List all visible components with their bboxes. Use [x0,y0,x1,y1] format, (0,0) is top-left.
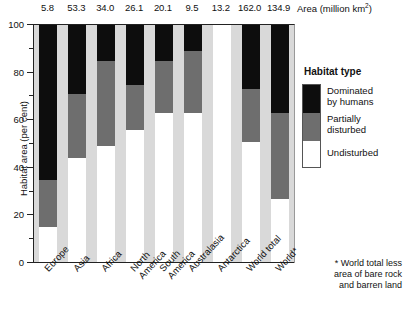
legend-label-undisturbed: Undisturbed [327,148,378,159]
chart-root: 5.853.334.026.120.19.513.2162.0134.9 Are… [0,0,403,316]
legend-label-dominated: Dominated by humans [327,86,373,107]
segment-undisturbed-australasia [184,113,202,263]
legend-swatch-undisturbed [303,141,320,167]
area-caption-suffix: ) [369,3,372,14]
footnote-line-2: area of bare rock [292,269,402,280]
legend-label-partially-l1: Partially [327,113,361,124]
plot-area [33,24,295,263]
footnote-line-3: and barren land [292,280,402,291]
area-value-world: 134.9 [264,2,293,13]
segment-undisturbed-north-america [126,130,144,263]
bar-north-america[interactable] [126,25,144,263]
bar-asia[interactable] [68,25,86,263]
bar-world-total[interactable] [242,25,260,263]
segment-undisturbed-antarctica [213,25,231,263]
segment-partially-australasia [184,51,202,113]
area-axis-caption: Area (million km2) [297,2,372,14]
legend-label-undisturbed-l1: Undisturbed [327,147,378,158]
segment-partially-north-america [126,85,144,130]
segment-dominated-south-america [155,25,173,61]
bar-world[interactable] [271,25,289,263]
segment-partially-south-america [155,61,173,113]
y-tick-label-0: 0 [19,257,24,268]
segment-dominated-north-america [126,25,144,85]
legend-swatch-bar [302,84,321,168]
area-value-asia: 53.3 [62,2,91,13]
area-value-world-total: 162.0 [235,2,264,13]
footnote: * World total less area of bare rock and… [292,258,402,291]
segment-undisturbed-africa [97,146,115,263]
area-values-row: 5.853.334.026.120.19.513.2162.0134.9 [33,2,293,18]
area-caption-text: Area (million km [297,3,365,14]
area-value-antarctica: 13.2 [206,2,235,13]
segment-dominated-africa [97,25,115,61]
segment-undisturbed-south-america [155,113,173,263]
legend-title: Habitat type [304,66,361,77]
bar-south-america[interactable] [155,25,173,263]
area-value-australasia: 9.5 [177,2,206,13]
area-value-north-america: 26.1 [120,2,149,13]
legend-swatch-partially [303,113,320,141]
segment-partially-world [271,113,289,199]
legend-swatch-dominated [303,85,320,113]
segment-dominated-australasia [184,25,202,51]
segment-partially-asia [68,94,86,158]
legend-label-dominated-l2: by humans [327,96,373,107]
area-value-africa: 34.0 [91,2,120,13]
legend-label-dominated-l1: Dominated [327,85,373,96]
segment-partially-africa [97,61,115,147]
segment-partially-europe [39,180,57,228]
bar-antarctica[interactable] [213,25,231,263]
segment-dominated-asia [68,25,86,94]
segment-dominated-world [271,25,289,113]
bar-africa[interactable] [97,25,115,263]
bar-europe[interactable] [39,25,57,263]
segment-dominated-world-total [242,25,260,89]
segment-undisturbed-asia [68,158,86,263]
segment-partially-world-total [242,89,260,141]
y-tick-label-80: 80 [13,66,24,77]
segment-dominated-europe [39,25,57,180]
bar-australasia[interactable] [184,25,202,263]
area-value-europe: 5.8 [33,2,62,13]
bars-container [34,25,294,263]
y-axis-title: Habitat area (per cent) [18,79,29,219]
legend-label-partially: Partially disturbed [327,114,366,135]
y-tick-label-100: 100 [8,19,24,30]
legend-label-partially-l2: disturbed [327,124,366,135]
footnote-line-1: * World total less [292,258,402,269]
area-value-south-america: 20.1 [149,2,178,13]
